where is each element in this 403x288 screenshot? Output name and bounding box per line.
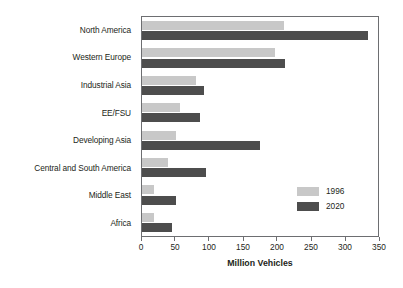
bar-2020 <box>142 196 176 205</box>
category-label-text: North America <box>80 26 131 34</box>
category-label-text: Africa <box>110 219 131 227</box>
bar-2020 <box>142 86 204 95</box>
x-tick-label: 50 <box>170 242 179 252</box>
bar-2020 <box>142 168 206 177</box>
x-axis: 050100150200250300350 <box>141 237 379 259</box>
bar-1996 <box>142 131 176 140</box>
category-label-text: Developing Asia <box>73 136 131 144</box>
bar-2020 <box>142 31 368 40</box>
bar-1996 <box>142 103 180 112</box>
bar-group <box>142 17 378 44</box>
category-label-text: EE/FSU <box>102 109 131 117</box>
x-tick-mark <box>311 237 312 241</box>
category-label: Western Europe <box>0 44 136 72</box>
legend-item-1996: 1996 <box>297 186 367 196</box>
x-tick-label: 0 <box>139 242 144 252</box>
bar-2020 <box>142 223 172 232</box>
chart-legend: 19962020 <box>297 186 367 216</box>
bar-2020 <box>142 59 285 68</box>
bar-1996 <box>142 48 275 57</box>
x-tick-mark <box>141 237 142 241</box>
category-label-text: Industrial Asia <box>81 81 131 89</box>
legend-label: 2020 <box>326 201 344 211</box>
bar-2020 <box>142 141 260 150</box>
category-label-text: Western Europe <box>73 53 131 61</box>
x-tick-label: 200 <box>270 242 284 252</box>
bar-group <box>142 44 378 71</box>
x-tick-mark <box>345 237 346 241</box>
bar-1996 <box>142 76 196 85</box>
x-tick-label: 100 <box>202 242 216 252</box>
bar-1996 <box>142 185 154 194</box>
x-tick-label: 150 <box>236 242 250 252</box>
bar-group <box>142 127 378 154</box>
bar-1996 <box>142 158 168 167</box>
bar-group <box>142 99 378 126</box>
x-tick-label: 250 <box>304 242 318 252</box>
category-label: EE/FSU <box>0 99 136 127</box>
x-tick-mark <box>379 237 380 241</box>
x-tick-mark <box>276 237 277 241</box>
x-tick-mark <box>208 237 209 241</box>
legend-item-2020: 2020 <box>297 201 367 211</box>
category-label: Middle East <box>0 182 136 210</box>
bar-2020 <box>142 113 200 122</box>
category-label: Developing Asia <box>0 127 136 155</box>
bar-group <box>142 72 378 99</box>
bar-1996 <box>142 21 284 30</box>
bar-1996 <box>142 213 154 222</box>
category-label: North America <box>0 16 136 44</box>
category-label: Central and South America <box>0 154 136 182</box>
legend-swatch-icon <box>297 202 319 211</box>
bar-group <box>142 154 378 181</box>
category-label-text: Middle East <box>89 191 131 199</box>
bar-chart: North AmericaWestern EuropeIndustrial As… <box>0 0 403 288</box>
x-tick-label: 300 <box>338 242 352 252</box>
legend-label: 1996 <box>326 186 344 196</box>
x-axis-title: Million Vehicles <box>141 258 379 268</box>
legend-swatch-icon <box>297 187 319 196</box>
category-label: Industrial Asia <box>0 71 136 99</box>
x-tick-label: 350 <box>372 242 386 252</box>
category-axis: North AmericaWestern EuropeIndustrial As… <box>0 16 136 237</box>
category-label-text: Central and South America <box>34 164 131 172</box>
x-tick-mark <box>174 237 175 241</box>
x-tick-mark <box>243 237 244 241</box>
category-label: Africa <box>0 209 136 237</box>
